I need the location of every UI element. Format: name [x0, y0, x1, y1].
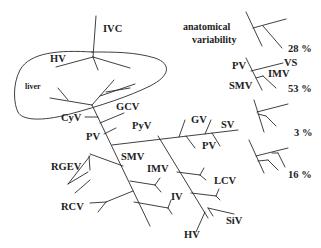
hv-label-top: HV	[50, 54, 66, 65]
variant-2-smv-label: SMV	[229, 81, 252, 92]
smv-label: SMV	[121, 152, 144, 163]
variant-4-percent: 16 %	[288, 170, 312, 181]
siv-label: SiV	[226, 216, 242, 227]
pv-branch-label: PV	[202, 141, 216, 152]
pyv-label: PyV	[132, 121, 151, 132]
pv-label: PV	[86, 132, 100, 143]
variant-2-imv-label: IMV	[268, 69, 290, 80]
imv-label: IMV	[147, 164, 169, 175]
iv-label: IV	[171, 192, 183, 203]
sv-label: SV	[221, 120, 234, 131]
liver-label: liver	[25, 83, 41, 91]
rgev-label: RGEV	[51, 162, 81, 173]
gv-label: GV	[191, 115, 207, 126]
gcv-label: GCV	[116, 102, 139, 113]
variant-2-pv-label: PV	[232, 61, 246, 72]
vessel-lines	[0, 0, 321, 248]
vascular-anatomy-diagram: IVC HV liver GCV CyV PV PyV GV SV PV RGE…	[0, 0, 321, 248]
lcv-label: LCV	[214, 176, 236, 187]
variant-2-vs-label: VS	[284, 58, 297, 69]
variant-2-percent: 53 %	[288, 84, 312, 95]
rcv-label: RCV	[61, 202, 84, 213]
variability-title-line1: anatomical	[183, 22, 230, 32]
ivc-label: IVC	[103, 24, 122, 35]
hv-label-bottom: HV	[184, 230, 200, 241]
variant-3-percent: 3 %	[294, 128, 312, 139]
variant-1-percent: 28 %	[288, 44, 312, 55]
cyv-label: CyV	[61, 113, 81, 124]
variability-title-line2: variability	[192, 35, 236, 45]
